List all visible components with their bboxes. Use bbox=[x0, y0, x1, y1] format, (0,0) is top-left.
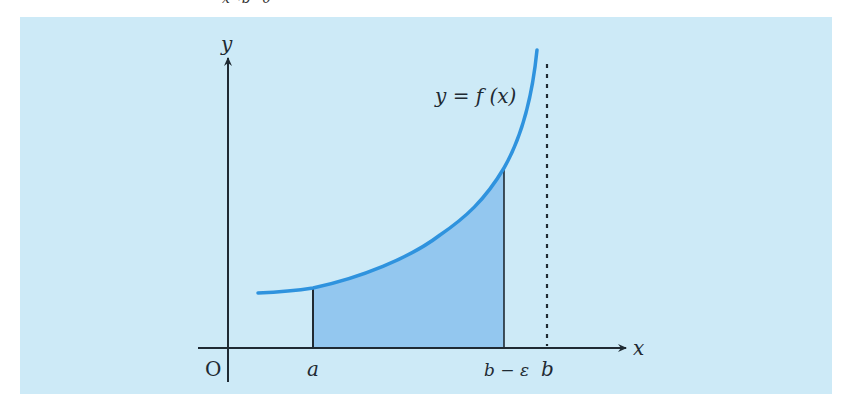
tick-label-a: a bbox=[307, 357, 319, 381]
curve-label: y = f (x) bbox=[434, 84, 516, 108]
shaded-area bbox=[313, 168, 504, 348]
tick-label-b-minus-eps: b − ε bbox=[484, 360, 529, 380]
y-axis-label: y bbox=[220, 32, 233, 56]
tick-label-b: b bbox=[541, 357, 554, 381]
origin-label: O bbox=[205, 357, 221, 381]
x-axis-label: x bbox=[633, 336, 644, 360]
improper-integral-diagram: y x O a b − ε b y = f (x) bbox=[0, 0, 847, 402]
